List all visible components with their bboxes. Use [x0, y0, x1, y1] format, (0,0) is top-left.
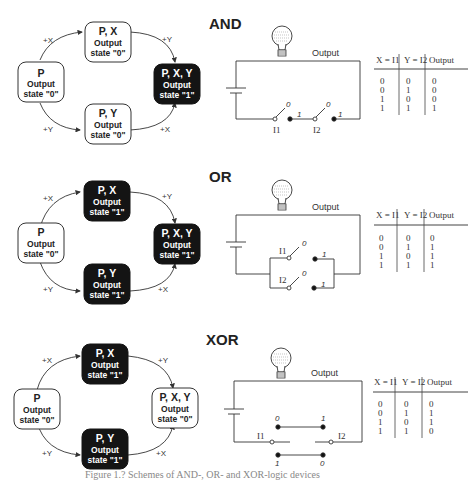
panel-title: OR [209, 168, 232, 185]
or-panel: +X +Y +Y +X P Output state "0" P, X Outp… [18, 168, 468, 304]
svg-text:1: 1 [430, 260, 435, 270]
output-label: Output [312, 48, 340, 58]
svg-text:P, X, Y: P, X, Y [161, 227, 192, 239]
svg-text:X = I1: X = I1 [374, 377, 398, 387]
svg-text:1: 1 [297, 110, 301, 119]
svg-text:Output: Output [23, 405, 51, 415]
svg-text:Output: Output [94, 120, 122, 130]
svg-text:state "0": state "0" [24, 89, 59, 99]
output-label: Output [311, 368, 339, 378]
and-truth-table: X = I1 Y = I2 Output 000 010 100 111 [374, 54, 468, 115]
svg-text:0: 0 [326, 100, 331, 109]
switch-i2-label: I2 [313, 125, 321, 135]
state-node-pxy: P, X, Y Output state "0" [152, 388, 198, 428]
edge-label: +Y [43, 285, 54, 294]
edge-label: +X [43, 194, 54, 203]
switch-i2-label: I2 [279, 275, 287, 285]
svg-text:P, Y: P, Y [98, 267, 116, 279]
svg-text:Output: Output [429, 210, 455, 220]
svg-text:P, Y: P, Y [99, 107, 117, 119]
switch-i1-label: I1 [279, 246, 287, 256]
svg-text:0: 0 [302, 269, 307, 278]
svg-text:Output: Output [93, 280, 121, 290]
switch-i1-label: I1 [273, 125, 281, 135]
svg-text:state "1": state "1" [160, 90, 195, 100]
svg-text:P, X: P, X [96, 347, 115, 359]
xor-panel: +X +Y +Y +X P Output state "0" P, X Outp… [14, 331, 468, 469]
state-node-p: P Output state "0" [18, 223, 64, 263]
svg-text:Output: Output [427, 377, 453, 387]
svg-text:0: 0 [302, 239, 307, 248]
svg-text:Output: Output [91, 360, 119, 370]
edge-label: +X [42, 356, 53, 365]
svg-text:Output: Output [163, 240, 191, 250]
svg-text:P, X: P, X [99, 25, 118, 37]
state-node-pxy: P, X, Y Output state "1" [154, 224, 200, 264]
panel-title: AND [209, 15, 242, 32]
svg-text:X = I1: X = I1 [376, 210, 400, 220]
svg-text:Output: Output [27, 239, 55, 249]
xor-circuit [224, 381, 362, 457]
svg-text:state "1": state "1" [90, 290, 125, 300]
state-node-p: P Output state "0" [14, 389, 60, 429]
state-node-px: P, X Output state "1" [84, 181, 130, 221]
svg-text:P: P [37, 226, 44, 238]
switch-i1-label: I1 [257, 431, 265, 441]
svg-text:1: 1 [322, 250, 326, 259]
edge-label: +X [158, 285, 169, 294]
state-node-py: P, Y Output state "1" [82, 429, 128, 469]
or-truth-table: X = I1 Y = I2 Output 000 011 101 111 [374, 209, 468, 272]
svg-text:1: 1 [432, 103, 437, 113]
output-label: Output [312, 202, 340, 212]
svg-text:P, Y: P, Y [96, 432, 114, 444]
and-panel: +X +Y +Y +X P Output state "0" P, X Outp… [18, 15, 468, 144]
svg-text:P, X, Y: P, X, Y [159, 391, 190, 403]
svg-text:P: P [37, 67, 44, 79]
svg-text:state "0": state "0" [24, 249, 59, 259]
state-node-py: P, Y Output state "1" [84, 264, 130, 304]
svg-text:state "1": state "1" [88, 370, 123, 380]
svg-text:Output: Output [161, 404, 189, 414]
state-node-py: P, Y Output state "0" [85, 104, 131, 144]
figure-caption: Figure 1.? Schemes of AND-, OR- and XOR-… [85, 469, 320, 480]
edge-label: +X [43, 36, 54, 45]
svg-text:0: 0 [286, 100, 291, 109]
svg-text:1: 1 [321, 280, 325, 289]
svg-text:1: 1 [406, 103, 411, 113]
state-node-px: P, X Output state "0" [85, 22, 131, 62]
svg-text:1: 1 [275, 459, 279, 468]
svg-text:Output: Output [94, 38, 122, 48]
switch-i2-label: I2 [338, 431, 346, 441]
svg-text:state "1": state "1" [90, 207, 125, 217]
bulb-icon [272, 180, 292, 210]
svg-text:1: 1 [321, 414, 325, 423]
xor-truth-table: X = I1 Y = I2 Output 000 011 101 110 [373, 377, 468, 438]
panel-title: XOR [206, 331, 239, 348]
svg-text:1: 1 [406, 260, 411, 270]
svg-text:state "1": state "1" [160, 250, 195, 260]
bulb-icon [271, 348, 291, 378]
edge-label: +Y [42, 449, 53, 458]
edge-label: +Y [162, 35, 173, 44]
state-node-p: P Output state "0" [18, 62, 64, 102]
svg-text:1: 1 [378, 426, 383, 436]
svg-text:state "0": state "0" [158, 414, 193, 424]
svg-text:Output: Output [163, 80, 191, 90]
svg-text:Output: Output [429, 55, 455, 65]
svg-text:state "0": state "0" [20, 415, 55, 425]
state-node-px: P, X Output state "1" [82, 344, 128, 384]
svg-text:state "0": state "0" [91, 130, 126, 140]
edge-label: +X [156, 449, 167, 458]
svg-text:X = I1: X = I1 [376, 55, 400, 65]
or-circuit [226, 215, 360, 290]
svg-text:0: 0 [429, 426, 434, 436]
svg-text:Output: Output [93, 197, 121, 207]
state-node-pxy: P, X, Y Output state "1" [154, 64, 200, 104]
svg-text:state "1": state "1" [88, 455, 123, 465]
edge-label: +X [160, 125, 171, 134]
svg-text:P, X, Y: P, X, Y [161, 67, 192, 79]
edge-label: +Y [162, 192, 173, 201]
svg-text:0: 0 [275, 414, 280, 423]
svg-text:Output: Output [91, 445, 119, 455]
svg-text:0: 0 [320, 459, 325, 468]
